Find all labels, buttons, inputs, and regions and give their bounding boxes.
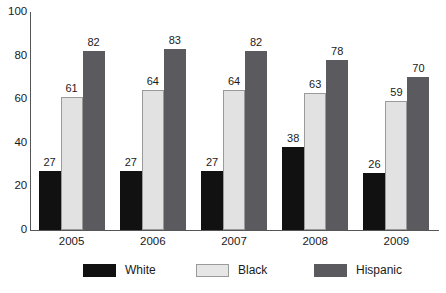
bar-value-label: 82 (239, 37, 273, 48)
y-axis-tick-label: 20 (1, 180, 27, 192)
y-axis-tick-label: 60 (1, 93, 27, 105)
bar-wrapper: 26 (363, 12, 385, 230)
bar-wrapper: 27 (201, 12, 223, 230)
bar-value-label: 70 (401, 63, 435, 74)
bar-hispanic-2005[interactable] (83, 51, 105, 230)
legend-label: White (125, 264, 156, 277)
bar-white-2008[interactable] (282, 147, 304, 230)
bar-black-2007[interactable] (223, 90, 245, 230)
legend-item-white[interactable]: White (83, 262, 156, 278)
bar-hispanic-2008[interactable] (326, 60, 348, 230)
bar-wrapper: 59 (385, 12, 407, 230)
y-axis-tick-label: 100 (1, 6, 27, 18)
bar-wrapper: 27 (39, 12, 61, 230)
bar-group: 276482 (201, 12, 267, 230)
bar-white-2005[interactable] (39, 171, 61, 230)
bar-group: 265970 (363, 12, 429, 230)
bar-group: 276483 (120, 12, 186, 230)
x-axis-tick-label: 2005 (32, 235, 112, 247)
x-axis-line (30, 230, 439, 231)
bar-wrapper: 82 (245, 12, 267, 230)
bar-black-2008[interactable] (304, 93, 326, 230)
bar-group: 276182 (39, 12, 105, 230)
bar-wrapper: 70 (407, 12, 429, 230)
bar-value-label: 78 (320, 46, 354, 57)
bar-hispanic-2006[interactable] (164, 49, 186, 230)
bar-wrapper: 82 (83, 12, 105, 230)
bar-wrapper: 83 (164, 12, 186, 230)
bar-hispanic-2007[interactable] (245, 51, 267, 230)
bar-wrapper: 38 (282, 12, 304, 230)
bar-hispanic-2009[interactable] (407, 77, 429, 230)
y-axis-tick-label: 0 (1, 224, 27, 236)
legend-swatch-white-icon (83, 264, 116, 277)
x-axis-tick-label: 2007 (194, 235, 274, 247)
legend-swatch-hispanic-icon (314, 264, 347, 277)
legend-item-hispanic[interactable]: Hispanic (314, 262, 402, 278)
plot-area: 276182276483276482386378265970 (31, 12, 437, 230)
chart-legend: WhiteBlackHispanic (0, 262, 446, 282)
bar-black-2009[interactable] (385, 101, 407, 230)
legend-label: Black (238, 264, 267, 277)
bar-black-2006[interactable] (142, 90, 164, 230)
x-axis-tick-label: 2006 (113, 235, 193, 247)
legend-swatch-black-icon (196, 264, 229, 277)
bar-white-2006[interactable] (120, 171, 142, 230)
y-axis-tick-label: 40 (1, 137, 27, 149)
bar-wrapper: 78 (326, 12, 348, 230)
y-axis-tick-label: 80 (1, 50, 27, 62)
x-axis-tick-label: 2008 (275, 235, 355, 247)
bar-white-2009[interactable] (363, 173, 385, 230)
bar-value-label: 83 (158, 35, 192, 46)
bar-group: 386378 (282, 12, 348, 230)
x-axis-tick-label: 2009 (356, 235, 436, 247)
y-axis-tick-labels: 020406080100 (0, 0, 27, 293)
bar-chart: 020406080100 276182276483276482386378265… (0, 0, 446, 293)
bar-value-label: 82 (77, 37, 111, 48)
bar-wrapper: 27 (120, 12, 142, 230)
bar-wrapper: 63 (304, 12, 326, 230)
bar-white-2007[interactable] (201, 171, 223, 230)
bar-black-2005[interactable] (61, 97, 83, 230)
legend-label: Hispanic (356, 264, 402, 277)
legend-item-black[interactable]: Black (196, 262, 267, 278)
